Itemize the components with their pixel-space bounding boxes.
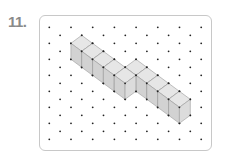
- grid-dot: [103, 50, 105, 52]
- grid-dot: [124, 66, 126, 68]
- grid-dot: [200, 138, 202, 140]
- grid-dot: [48, 42, 50, 44]
- grid-dot: [70, 58, 72, 60]
- grid-dot: [81, 130, 83, 132]
- grid-dot: [200, 122, 202, 124]
- grid-dot: [189, 34, 191, 36]
- grid-dot: [135, 26, 137, 28]
- grid-dot: [59, 130, 61, 132]
- grid-dot: [48, 74, 50, 76]
- grid-dot: [114, 26, 116, 28]
- grid-dot: [146, 82, 148, 84]
- grid-dot: [168, 34, 170, 36]
- grid-dot: [59, 66, 61, 68]
- grid-dot: [92, 26, 94, 28]
- grid-dot: [200, 42, 202, 44]
- grid-dot: [92, 58, 94, 60]
- grid-dot: [59, 114, 61, 116]
- grid-dot: [103, 34, 105, 36]
- grid-dot: [92, 122, 94, 124]
- grid-dot: [168, 82, 170, 84]
- grid-dot: [92, 90, 94, 92]
- grid-dot: [200, 74, 202, 76]
- grid-dot: [157, 90, 159, 92]
- grid-dot: [189, 98, 191, 100]
- grid-dot: [135, 106, 137, 108]
- grid-dot: [200, 26, 202, 28]
- grid-dot: [70, 122, 72, 124]
- grid-dot: [179, 26, 181, 28]
- grid-dot: [168, 114, 170, 116]
- grid-dot: [135, 138, 137, 140]
- grid-dot: [70, 26, 72, 28]
- grid-dot: [92, 74, 94, 76]
- grid-dot: [146, 114, 148, 116]
- grid-dot: [157, 74, 159, 76]
- grid-dot: [179, 106, 181, 108]
- grid-dot: [179, 122, 181, 124]
- grid-dot: [48, 90, 50, 92]
- grid-dot: [114, 122, 116, 124]
- grid-dot: [179, 58, 181, 60]
- grid-dot: [189, 114, 191, 116]
- grid-dot: [179, 138, 181, 140]
- grid-dot: [124, 34, 126, 36]
- grid-dot: [70, 42, 72, 44]
- grid-dot: [48, 26, 50, 28]
- grid-dot: [157, 42, 159, 44]
- grid-dot: [135, 122, 137, 124]
- grid-dot: [189, 50, 191, 52]
- grid-dot: [103, 130, 105, 132]
- grid-dot: [81, 82, 83, 84]
- grid-dot: [59, 98, 61, 100]
- grid-dot: [146, 130, 148, 132]
- grid-dot: [200, 58, 202, 60]
- grid-dot: [124, 50, 126, 52]
- grid-dot: [200, 106, 202, 108]
- grid-dot: [103, 82, 105, 84]
- grid-dot: [113, 74, 115, 76]
- grid-dot: [70, 106, 72, 108]
- grid-dot: [59, 34, 61, 36]
- grid-dot: [113, 90, 115, 92]
- grid-dot: [92, 138, 94, 140]
- isometric-cube-drawing: [0, 0, 226, 158]
- grid-dot: [70, 138, 72, 140]
- grid-dot: [146, 66, 148, 68]
- grid-dot: [200, 90, 202, 92]
- grid-dot: [103, 114, 105, 116]
- grid-dot: [135, 74, 137, 76]
- grid-dot: [48, 138, 50, 140]
- grid-dot: [48, 122, 50, 124]
- grid-dot: [59, 82, 61, 84]
- grid-dot: [48, 58, 50, 60]
- grid-dot: [59, 50, 61, 52]
- grid-dot: [70, 74, 72, 76]
- grid-dot: [81, 50, 83, 52]
- grid-dot: [48, 106, 50, 108]
- grid-dot: [168, 98, 170, 100]
- grid-dot: [114, 106, 116, 108]
- grid-dot: [81, 114, 83, 116]
- grid-dot: [113, 58, 115, 60]
- grid-dot: [124, 130, 126, 132]
- grid-dot: [157, 106, 159, 108]
- grid-dot: [92, 42, 94, 44]
- grid-dot: [146, 50, 148, 52]
- grid-dot: [70, 90, 72, 92]
- grid-dot: [81, 98, 83, 100]
- grid-dot: [157, 26, 159, 28]
- grid-dot: [135, 42, 137, 44]
- grid-dot: [157, 122, 159, 124]
- grid-dot: [124, 114, 126, 116]
- grid-dot: [103, 98, 105, 100]
- grid-dot: [179, 42, 181, 44]
- grid-dot: [168, 130, 170, 132]
- grid-dot: [157, 138, 159, 140]
- grid-dot: [81, 66, 83, 68]
- grid-dot: [189, 130, 191, 132]
- grid-dot: [189, 66, 191, 68]
- grid-dot: [146, 34, 148, 36]
- grid-dot: [146, 98, 148, 100]
- grid-dot: [179, 90, 181, 92]
